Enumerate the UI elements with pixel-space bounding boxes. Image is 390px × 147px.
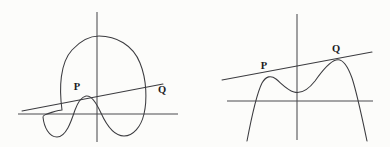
left-closed-oval-curve <box>43 36 146 137</box>
right-panel: P Q <box>222 14 373 141</box>
left-point-p-label: P <box>74 81 81 92</box>
figure-canvas: P Q P Q <box>0 0 390 147</box>
left-panel: P Q <box>18 12 178 142</box>
right-point-q-label: Q <box>332 43 340 54</box>
curves-diagram: P Q P Q <box>0 0 390 147</box>
left-secant-line <box>22 84 163 111</box>
right-point-p-label: P <box>261 60 268 71</box>
left-point-q-label: Q <box>158 84 166 95</box>
